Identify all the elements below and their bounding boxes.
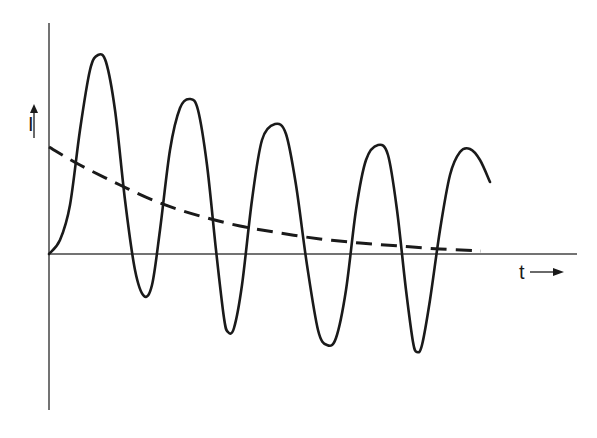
decaying-envelope-dashed-line: [49, 147, 481, 251]
right-arrow-icon: [530, 268, 564, 276]
y-axis-label: I: [28, 113, 34, 135]
x-axis-label-group: t: [519, 261, 564, 283]
damped-oscillation-figure: I t: [0, 0, 597, 438]
x-axis-label: t: [519, 261, 525, 283]
y-axis-label-group: I: [28, 104, 38, 138]
plot-canvas: I t: [0, 0, 597, 438]
oscillating-current-line: [49, 54, 490, 352]
